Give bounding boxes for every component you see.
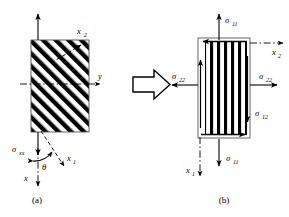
axis-x2-sub-a: 2 bbox=[84, 32, 87, 38]
axis-x1-label-b: x bbox=[185, 165, 190, 175]
axis-x2-label-a: x bbox=[76, 26, 81, 36]
axis-x1-label-a: x bbox=[66, 153, 71, 163]
sigma-12-label: σ bbox=[255, 108, 260, 118]
hatched-lamina-block bbox=[31, 40, 89, 132]
sigma-11-top-sub: 11 bbox=[232, 21, 238, 27]
panel-a-group bbox=[20, 14, 100, 186]
axis-x1-sub-b: 1 bbox=[192, 171, 195, 177]
angle-theta-label: θ bbox=[42, 162, 46, 172]
striped-lamina-block bbox=[205, 41, 247, 135]
sigma-22-left-sub: 22 bbox=[179, 77, 185, 83]
sigma-22-right-sub: 22 bbox=[266, 77, 272, 83]
sigma-xx-label: σ bbox=[12, 144, 17, 154]
diagram-svg: x 2 y σ xx x 1 θ x bbox=[0, 0, 289, 217]
angle-theta-arc bbox=[33, 152, 52, 161]
sigma-22-left-label: σ bbox=[172, 71, 177, 81]
axis-x1-sub-a: 1 bbox=[73, 159, 76, 165]
sigma-xx-sub: xx bbox=[18, 150, 25, 156]
sigma-11-bottom-sub: 11 bbox=[233, 159, 239, 165]
implies-arrow bbox=[133, 70, 170, 99]
caption-a: (a) bbox=[32, 195, 42, 205]
axis-x2-label-b: x bbox=[271, 47, 276, 57]
axis-x2-sub-b: 2 bbox=[278, 53, 281, 59]
caption-b: (b) bbox=[219, 195, 230, 205]
axis-x-label: x bbox=[23, 173, 28, 183]
panel-b-group bbox=[172, 14, 283, 176]
axis-x1-line-a bbox=[41, 131, 64, 166]
figure-canvas: x 2 y σ xx x 1 θ x bbox=[0, 0, 289, 217]
sigma-11-bottom-label: σ bbox=[226, 153, 231, 163]
sigma-12-sub: 12 bbox=[262, 114, 268, 120]
sigma-22-right-label: σ bbox=[259, 71, 264, 81]
axis-y-label: y bbox=[97, 71, 102, 81]
captions: (a) (b) bbox=[32, 195, 229, 205]
sigma-11-top-label: σ bbox=[225, 15, 230, 25]
